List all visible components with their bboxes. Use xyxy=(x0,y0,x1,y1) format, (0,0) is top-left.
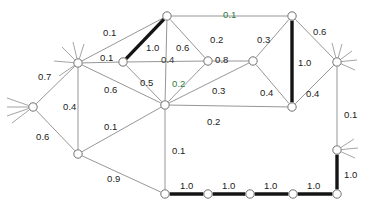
edge-weight-label: 0.1 xyxy=(104,122,118,132)
graph-node[interactable] xyxy=(204,57,212,65)
graph-node[interactable] xyxy=(161,190,169,198)
node-whisker xyxy=(12,110,29,123)
graph-node[interactable] xyxy=(161,101,169,109)
graph-node[interactable] xyxy=(288,12,296,20)
edge-weight-label: 0.3 xyxy=(212,86,226,96)
edge-weight-label: 0.6 xyxy=(36,132,50,142)
edge-weight-label: 0.1 xyxy=(103,28,117,38)
edge-weight-label: 0.2 xyxy=(210,35,224,45)
edge-weight-label: 0.1 xyxy=(223,10,237,20)
edge-weight-label: 0.4 xyxy=(63,102,77,112)
edge-weight-label: 0.1 xyxy=(100,53,114,63)
node-whisker xyxy=(7,98,29,106)
graph-node[interactable] xyxy=(333,190,341,198)
graph-edge xyxy=(82,156,161,192)
node-whisker xyxy=(341,152,355,158)
edge-weight-label: 0.1 xyxy=(172,146,186,156)
node-whisker xyxy=(79,44,84,59)
graph-node[interactable] xyxy=(29,103,37,111)
edge-weight-label: 1.0 xyxy=(146,43,160,53)
edge-weight-label: 1.0 xyxy=(344,170,358,180)
edge-weight-label: 0.1 xyxy=(344,110,358,120)
edge-weight-label: 0.4 xyxy=(260,88,274,98)
node-whisker xyxy=(332,43,336,58)
edge-weight-label: 0.4 xyxy=(161,55,175,65)
edge-weight-label: 1.0 xyxy=(307,181,321,191)
graph-node[interactable] xyxy=(119,58,127,66)
graph-node[interactable] xyxy=(163,12,171,20)
graph-diagram: 0.70.60.40.10.10.60.10.91.00.40.50.10.60… xyxy=(0,0,369,211)
graph-node[interactable] xyxy=(289,190,297,198)
node-whisker xyxy=(62,47,75,60)
edge-weight-label: 1.0 xyxy=(298,58,312,68)
graph-edge xyxy=(82,107,161,151)
node-whisker xyxy=(341,51,352,59)
node-whisker xyxy=(73,42,77,59)
edge-weight-label: 0.4 xyxy=(306,89,320,99)
node-whisker xyxy=(342,60,357,62)
node-whisker xyxy=(341,139,354,148)
edge-weight-label: 0.7 xyxy=(38,72,52,82)
edge-weight-label: 0.9 xyxy=(107,174,121,184)
edge-weight-label: 0.6 xyxy=(104,85,118,95)
graph-node[interactable] xyxy=(249,57,257,65)
graph-node[interactable] xyxy=(333,58,341,66)
graph-node[interactable] xyxy=(246,190,254,198)
edge-weight-label: 0.6 xyxy=(176,43,190,53)
edge-weight-label: 1.0 xyxy=(180,181,194,191)
edge-weight-label: 0.5 xyxy=(140,78,154,88)
graph-node[interactable] xyxy=(288,103,296,111)
edge-weight-label: 1.0 xyxy=(264,181,278,191)
graph-edge xyxy=(170,105,288,107)
node-whisker xyxy=(338,44,342,58)
edge-weight-label: 0.3 xyxy=(257,35,271,45)
node-whisker xyxy=(341,64,355,70)
graph-node[interactable] xyxy=(204,190,212,198)
edge-weight-label: 0.2 xyxy=(207,117,221,127)
edge-weight-label: 0.8 xyxy=(215,55,229,65)
edge-weight-label: 0.6 xyxy=(313,27,327,37)
edge-weight-label: 0.2 xyxy=(172,79,186,89)
graph-node[interactable] xyxy=(74,150,82,158)
graph-edge xyxy=(82,18,163,61)
edge-weight-label: 1.0 xyxy=(222,181,236,191)
graph-node[interactable] xyxy=(333,146,341,154)
graph-node[interactable] xyxy=(74,59,82,67)
node-whisker xyxy=(342,148,358,150)
node-whisker xyxy=(54,61,73,63)
